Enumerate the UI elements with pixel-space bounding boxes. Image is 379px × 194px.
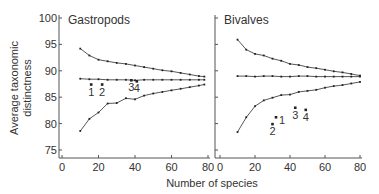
panel-bivalves: 020406080Bivalves1234 [215, 13, 366, 173]
series-marker [203, 79, 205, 81]
series-marker [245, 75, 247, 77]
series-marker [350, 76, 352, 78]
series-marker [280, 76, 282, 78]
series-marker [315, 89, 317, 91]
series-marker [237, 75, 239, 77]
x-tick-label: 20 [249, 161, 261, 173]
series-marker [152, 79, 154, 81]
x-tick-label: 20 [92, 161, 104, 173]
series-marker [298, 64, 300, 66]
series-marker [161, 79, 163, 81]
y-axis-label-line2: distinctness [21, 59, 33, 117]
series-marker [324, 87, 326, 89]
series-marker [143, 79, 145, 81]
series-marker [324, 69, 326, 71]
series-marker [180, 72, 182, 74]
series-marker [107, 103, 109, 105]
series-marker [189, 79, 191, 81]
x-tick-label: 40 [284, 161, 296, 173]
series-marker [107, 79, 109, 81]
series-marker [333, 76, 335, 78]
series-marker [333, 85, 335, 87]
y-axis-label: Average taxonomic distinctness [8, 41, 33, 135]
series-marker [263, 75, 265, 77]
sample-point-label: 4 [134, 82, 140, 94]
series-marker [307, 90, 309, 92]
series-marker [98, 59, 100, 61]
sample-point-1 [275, 116, 278, 119]
series-marker [280, 60, 282, 62]
series-marker [98, 78, 100, 80]
series-marker [98, 112, 100, 114]
series-marker [307, 66, 309, 68]
series-marker [189, 74, 191, 76]
panel-gastropods: 7580859095100020406080Gastropods1234 [39, 12, 214, 173]
series-marker [116, 102, 118, 104]
sample-point-label: 1 [88, 86, 94, 98]
series-marker [79, 48, 81, 50]
series-marker [88, 118, 90, 120]
series-marker [289, 94, 291, 96]
y-tick-label: 80 [45, 118, 57, 130]
series-marker [116, 79, 118, 81]
panel-title: Gastropods [68, 13, 130, 27]
sample-point-label: 4 [303, 111, 309, 123]
series-marker [134, 65, 136, 67]
series-marker [263, 55, 265, 57]
series-marker [254, 105, 256, 107]
y-axis-label-line1: Average taxonomic [8, 41, 20, 135]
series-marker [125, 63, 127, 65]
x-tick-label: 80 [202, 161, 214, 173]
series-marker [342, 71, 344, 73]
series-marker [342, 84, 344, 86]
series-marker [333, 70, 335, 72]
series-marker [245, 49, 247, 51]
series-marker [280, 94, 282, 96]
x-tick-label: 60 [165, 161, 177, 173]
series-marker [203, 84, 205, 86]
series-marker [198, 85, 200, 87]
series-marker [272, 58, 274, 60]
series-marker [254, 76, 256, 78]
series-marker [171, 79, 173, 81]
series-marker [171, 70, 173, 72]
x-tick-label: 0 [217, 161, 223, 173]
x-tick-label: 40 [129, 161, 141, 173]
y-tick-label: 75 [45, 144, 57, 156]
series-marker [245, 116, 247, 118]
chart: Average taxonomic distinctness 758085909… [0, 0, 379, 194]
sample-point-label: 2 [99, 86, 105, 98]
y-tick-label: 100 [39, 12, 57, 24]
series-marker [307, 75, 309, 77]
sample-point-label: 3 [292, 109, 298, 121]
series-marker [152, 68, 154, 70]
series-marker [289, 76, 291, 78]
series-marker [272, 97, 274, 99]
series-marker [152, 93, 154, 95]
series-marker [161, 69, 163, 71]
series-marker [272, 75, 274, 77]
series-marker [125, 97, 127, 99]
series-marker [350, 73, 352, 75]
series-marker [79, 130, 81, 132]
series-marker [342, 76, 344, 78]
x-axis-label: Number of species [166, 177, 258, 189]
panel-title: Bivalves [224, 13, 269, 27]
series-marker [88, 55, 90, 57]
sample-point-label: 2 [269, 125, 275, 137]
series-marker [116, 62, 118, 64]
series-marker [125, 79, 127, 81]
series-marker [315, 76, 317, 78]
series-marker [198, 79, 200, 81]
series-marker [203, 76, 205, 78]
series-marker [88, 78, 90, 80]
series-upper-limit [238, 40, 361, 76]
series-marker [198, 75, 200, 77]
x-tick-label: 0 [59, 161, 65, 173]
series-marker [359, 76, 361, 78]
series-marker [143, 95, 145, 97]
y-tick-label: 90 [45, 65, 57, 77]
series-marker [254, 53, 256, 55]
x-tick-label: 80 [354, 161, 366, 173]
y-tick-label: 95 [45, 38, 57, 50]
